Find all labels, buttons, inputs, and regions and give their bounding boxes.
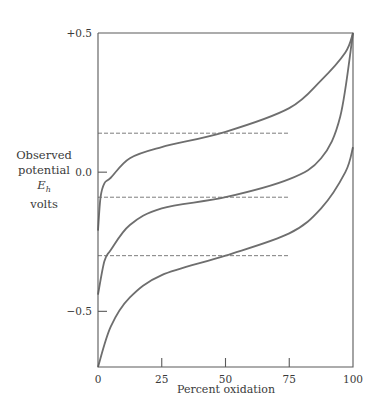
curve-3-line	[98, 147, 353, 367]
ticks: 0255075100+0.50.0−0.5	[67, 27, 364, 385]
x-tick-label: 0	[95, 373, 102, 385]
y-axis-label: Observed potential Eh volts	[8, 148, 80, 212]
y-label-line2: potential	[8, 163, 80, 178]
axes	[98, 33, 353, 367]
x-tick-label: 75	[283, 373, 296, 385]
reference-lines	[98, 133, 289, 255]
x-axis-label: Percent oxidation	[177, 383, 275, 396]
curves	[98, 33, 353, 367]
y-label-line4: volts	[8, 197, 80, 212]
x-tick-label: 25	[155, 373, 168, 385]
curve-1-line	[98, 33, 353, 231]
y-label-line1: Observed	[8, 148, 80, 163]
x-tick-label: 100	[343, 373, 363, 385]
y-tick-label: −0.5	[67, 305, 93, 317]
y-tick-label: +0.5	[67, 27, 93, 39]
plot-frame	[98, 33, 353, 367]
y-label-symbol: Eh	[8, 178, 80, 197]
